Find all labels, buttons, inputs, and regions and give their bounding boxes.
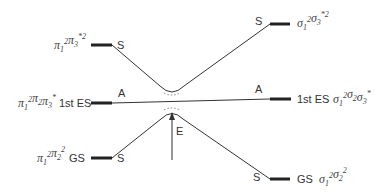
orbital-subscript: 2 bbox=[339, 174, 343, 183]
orbital-superscript: * bbox=[367, 89, 371, 98]
symmetry-label-left-top: S bbox=[117, 39, 124, 51]
orbital-configuration: σ12σ22 bbox=[319, 166, 347, 188]
orbital-subscript: 1 bbox=[325, 179, 329, 188]
orbital-superscript: *2 bbox=[321, 10, 329, 19]
orbital-subscript: 1 bbox=[60, 45, 64, 54]
orbital-subscript: 2 bbox=[57, 153, 61, 162]
orbital-configuration: π12π2π3* bbox=[18, 91, 56, 112]
term-left-middle: π12π2π3* bbox=[18, 91, 56, 112]
orbital-configuration: π12π3*2 bbox=[54, 32, 86, 54]
correlation-upper-s bbox=[112, 24, 270, 92]
avoided-crossing-dots-upper bbox=[164, 93, 180, 95]
term-right-top: σ12σ3*2 bbox=[297, 10, 329, 32]
orbital-superscript: *2 bbox=[78, 32, 86, 41]
orbital-subscript: 3 bbox=[316, 18, 321, 27]
orbital-subscript: 3 bbox=[73, 40, 78, 49]
correlation-diagram: E S A S S A S 1st ES GS 1st ES GS π12π3*… bbox=[0, 0, 385, 193]
orbital-subscript: 1 bbox=[24, 103, 28, 112]
orbital-subscript: 3 bbox=[362, 97, 367, 106]
correlation-middle-a bbox=[112, 99, 270, 103]
correlation-lower-s bbox=[112, 114, 270, 180]
state-label-right-middle: 1st ES bbox=[297, 93, 329, 105]
symmetry-label-right-bottom: S bbox=[253, 171, 260, 183]
orbital-subscript: 1 bbox=[339, 99, 343, 108]
term-left-bottom: π12π22 bbox=[37, 145, 65, 167]
orbital-subscript: 3 bbox=[47, 101, 52, 110]
orbital-configuration: σ12σ2σ3* bbox=[333, 87, 371, 108]
term-right-middle: σ12σ2σ3* bbox=[333, 87, 371, 108]
orbital-superscript: * bbox=[52, 93, 56, 102]
state-label-right-bottom: GS bbox=[297, 173, 313, 185]
orbital-configuration: σ12σ3*2 bbox=[297, 10, 329, 32]
symmetry-label-right-top: S bbox=[255, 15, 262, 27]
orbital-superscript: 2 bbox=[343, 166, 347, 175]
term-left-top: π12π3*2 bbox=[54, 32, 86, 54]
symmetry-label-right-middle: A bbox=[255, 83, 263, 95]
energy-arrow-label: E bbox=[176, 125, 183, 137]
orbital-superscript: 2 bbox=[61, 145, 65, 154]
symmetry-label-left-middle: A bbox=[118, 87, 126, 99]
orbital-subscript: 1 bbox=[303, 23, 307, 32]
state-label-left-bottom: GS bbox=[69, 152, 85, 164]
symmetry-label-left-bottom: S bbox=[117, 152, 124, 164]
term-right-bottom: σ12σ22 bbox=[319, 166, 347, 188]
state-label-left-middle: 1st ES bbox=[59, 97, 91, 109]
orbital-configuration: π12π22 bbox=[37, 145, 65, 167]
orbital-subscript: 1 bbox=[43, 158, 47, 167]
avoided-crossing-dots-lower bbox=[164, 108, 180, 110]
